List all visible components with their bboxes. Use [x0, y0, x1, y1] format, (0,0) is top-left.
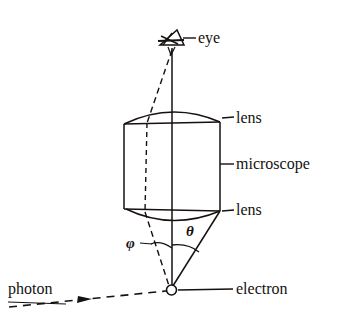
phi-angle-arc: [151, 243, 172, 248]
photon-arrowhead-icon: [77, 296, 92, 303]
heisenberg-microscope-figure: eye lens microscope lens electron photon…: [0, 0, 350, 322]
eye-icon-stroke-3: [163, 33, 172, 45]
leader-line-electron: [178, 289, 233, 290]
scattered-ray-to-eye: [145, 50, 172, 289]
scattered-ray-lower-segment: [145, 212, 170, 289]
label-lens-top: lens: [236, 110, 262, 126]
label-eye: eye: [198, 30, 220, 46]
leader-line-lens-bottom: [222, 210, 234, 211]
leader-line-lens-top: [222, 117, 234, 118]
label-theta-angle: θ: [186, 224, 194, 239]
phi-leader-tick: [140, 243, 152, 244]
scattered-ray-hidden-segment: [145, 123, 147, 212]
label-electron: electron: [236, 281, 288, 297]
label-lens-bottom: lens: [236, 202, 262, 218]
electron-circle-marker: [167, 285, 177, 295]
label-phi-angle: φ: [126, 236, 135, 251]
label-microscope: microscope: [236, 156, 310, 172]
label-photon: photon: [8, 281, 52, 297]
